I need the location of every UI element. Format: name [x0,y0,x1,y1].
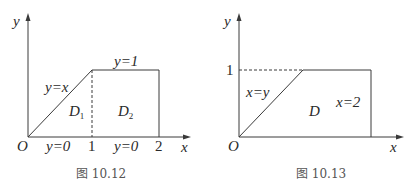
y-axis-label: y [13,14,20,29]
origin-label: O [228,139,239,154]
line-x-eq-y [239,70,303,137]
tick-x-2: 2 [155,139,163,154]
origin-label: O [17,139,28,154]
region-label-d2: D2 [118,104,133,121]
region-label-d1: D1 [69,104,84,121]
figure-10-13-graphics [237,13,405,140]
figure-caption: 图 10.12 [76,168,126,180]
curve-label-x-eq-2: x=2 [336,95,360,110]
y-axis-arrow [237,13,242,21]
curve-label-y-eq-0-left: y=0 [46,139,70,154]
y-axis-label: y [224,14,231,29]
curve-label-y-eq-1: y=1 [114,54,138,69]
curve-label-y-eq-0-right: y=0 [114,139,138,154]
x-axis-label: x [181,140,188,155]
region-label-d: D [309,104,320,119]
x-axis-label: x [390,140,397,155]
curve-label-x-eq-y: x=y [246,85,269,100]
tick-y-1: 1 [226,63,234,78]
figure-caption: 图 10.13 [296,168,346,180]
curve-label-y-eq-x: y=x [45,80,68,95]
y-axis-arrow [26,13,31,21]
x-axis-arrow [396,135,404,140]
figure-10-12-graphics [26,13,192,140]
tick-x-1: 1 [88,139,96,154]
